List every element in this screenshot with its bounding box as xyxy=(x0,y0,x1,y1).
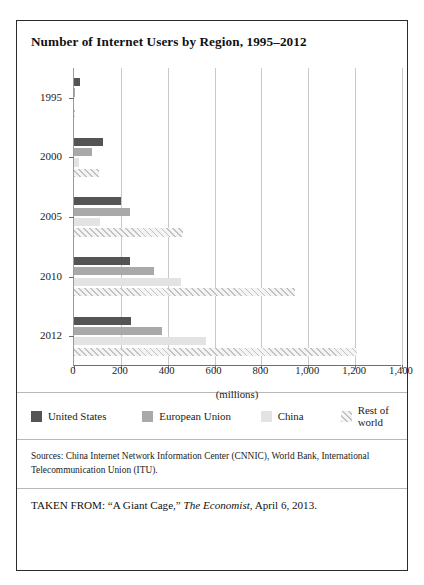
bar-eu-2010 xyxy=(74,267,154,275)
x-axis-label: 0 xyxy=(70,365,75,376)
attribution-prefix: TAKEN FROM: “A Giant Cage,” xyxy=(31,499,184,511)
x-axis-label: 800 xyxy=(252,365,268,376)
bar-eu-2005 xyxy=(74,208,130,216)
legend-item-eu: European Union xyxy=(142,410,260,422)
bar-row-2005 xyxy=(74,228,183,236)
bar-us-1995 xyxy=(74,78,80,86)
legend-item-row: Rest of world xyxy=(341,404,407,428)
bar-cn-2010 xyxy=(74,278,181,286)
x-axis-label: 600 xyxy=(206,365,222,376)
bar-row-2012 xyxy=(74,348,357,356)
plot-region xyxy=(73,68,401,366)
bar-us-2005 xyxy=(74,197,121,205)
legend-swatch-cn xyxy=(261,411,272,422)
legend-label-cn: China xyxy=(278,410,304,422)
x-axis-label: 1,000 xyxy=(295,365,319,376)
x-axis-label: 1,400 xyxy=(389,365,413,376)
bar-cn-2000 xyxy=(74,158,79,166)
bar-group xyxy=(74,197,401,236)
bar-cn-2005 xyxy=(74,218,100,226)
bar-eu-1995 xyxy=(74,88,75,96)
legend-label-eu: European Union xyxy=(159,410,231,422)
bar-eu-2012 xyxy=(74,327,162,335)
bar-us-2012 xyxy=(74,317,131,325)
bar-group xyxy=(74,138,401,177)
bar-us-2000 xyxy=(74,138,103,146)
bar-us-2010 xyxy=(74,257,130,265)
bar-row-2000 xyxy=(74,169,99,177)
attribution-publication: The Economist xyxy=(184,499,250,511)
figure-frame: Number of Internet Users by Region, 1995… xyxy=(16,20,408,571)
y-axis-label-2010: 2010 xyxy=(15,270,71,282)
y-axis-label-2005: 2005 xyxy=(15,210,71,222)
sources-note: Sources: China Internet Network Informat… xyxy=(17,440,407,488)
bar-group xyxy=(74,78,401,117)
legend-swatch-eu xyxy=(142,411,153,422)
legend-swatch-row xyxy=(341,411,352,422)
legend-label-row: Rest of world xyxy=(358,404,407,428)
bar-row-1995 xyxy=(74,109,75,117)
bar-eu-2000 xyxy=(74,148,92,156)
chart-area: (millions) 02004006008001,0001,2001,4001… xyxy=(17,62,407,392)
attribution-line: TAKEN FROM: “A Giant Cage,” The Economis… xyxy=(17,489,407,511)
bar-group xyxy=(74,317,401,356)
y-axis-label-1995: 1995 xyxy=(15,91,71,103)
legend-item-cn: China xyxy=(261,410,341,422)
x-axis-label: 400 xyxy=(159,365,175,376)
bar-cn-2012 xyxy=(74,337,206,345)
page-title: Number of Internet Users by Region, 1995… xyxy=(31,34,407,50)
legend-swatch-us xyxy=(31,411,42,422)
bar-row-2010 xyxy=(74,288,295,296)
y-axis-label-2012: 2012 xyxy=(15,329,71,341)
x-axis-title: (millions) xyxy=(73,388,401,400)
x-axis-label: 1,200 xyxy=(342,365,366,376)
x-axis-label: 200 xyxy=(112,365,128,376)
attribution-suffix: , April 6, 2013. xyxy=(250,499,317,511)
legend-label-us: United States xyxy=(48,410,106,422)
y-axis-label-2000: 2000 xyxy=(15,150,71,162)
figure-page: Number of Internet Users by Region, 1995… xyxy=(0,0,424,585)
legend-item-us: United States xyxy=(31,410,142,422)
bar-group xyxy=(74,257,401,296)
gridline xyxy=(402,68,403,365)
